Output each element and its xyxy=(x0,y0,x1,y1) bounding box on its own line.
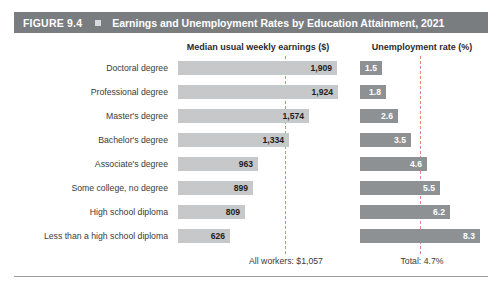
earnings-value-label: 626 xyxy=(211,231,230,241)
chart-row: Professional degree1,9241.8 xyxy=(0,80,502,104)
chart-row: High school diploma8096.2 xyxy=(0,200,502,224)
unemployment-bar: 1.8 xyxy=(360,85,386,99)
unemployment-bar: 4.6 xyxy=(360,157,427,171)
unemployment-bar: 5.5 xyxy=(360,181,440,195)
unemployment-value-label: 6.2 xyxy=(433,207,450,217)
chart-row: Associate's degree9634.6 xyxy=(0,152,502,176)
unemployment-bar: 6.2 xyxy=(360,205,450,219)
row-label-bachelor-s-degree: Bachelor's degree xyxy=(8,128,172,152)
earnings-value-label: 963 xyxy=(239,159,258,169)
earnings-value-label: 899 xyxy=(234,183,253,193)
chart-row: Less than a high school diploma6268.3 xyxy=(0,224,502,248)
unemployment-value-label: 8.3 xyxy=(463,231,480,241)
earnings-bar: 899 xyxy=(178,181,253,195)
earnings-bar: 626 xyxy=(178,229,230,243)
unemployment-value-label: 5.5 xyxy=(423,183,440,193)
figure-9-4-chart: { "figure": { "number_label": "FIGURE 9.… xyxy=(0,0,502,289)
row-label-high-school-diploma: High school diploma xyxy=(8,200,172,224)
row-label-master-s-degree: Master's degree xyxy=(8,104,172,128)
footnote-total-rate: Total: 4.7% xyxy=(356,256,488,266)
unemployment-value-label: 2.6 xyxy=(381,111,398,121)
chart-row: Master's degree1,5742.6 xyxy=(0,104,502,128)
earnings-bar: 963 xyxy=(178,157,258,171)
unemployment-value-label: 3.5 xyxy=(394,135,411,145)
row-label-professional-degree: Professional degree xyxy=(8,80,172,104)
figure-title-bar: FIGURE 9.4 Earnings and Unemployment Rat… xyxy=(14,12,488,33)
earnings-value-label: 1,924 xyxy=(311,87,338,97)
unemployment-bar: 1.5 xyxy=(360,61,382,75)
unemployment-bar: 2.6 xyxy=(360,109,398,123)
unemployment-value-label: 4.6 xyxy=(410,159,427,169)
earnings-bar: 1,924 xyxy=(178,85,338,99)
chart-row: Doctoral degree1,9091.5 xyxy=(0,56,502,80)
square-bullet-icon xyxy=(95,20,101,26)
footnote-all-workers: All workers: $1,057 xyxy=(196,256,376,266)
earnings-bar: 1,574 xyxy=(178,109,309,123)
chart-plot-area: Doctoral degree1,9091.5Professional degr… xyxy=(0,56,502,248)
unemployment-bar: 8.3 xyxy=(360,229,480,243)
earnings-bar: 1,909 xyxy=(178,61,337,75)
unemployment-value-label: 1.8 xyxy=(369,87,386,97)
earnings-bar: 1,334 xyxy=(178,133,289,147)
row-label-some-college-no-degree: Some college, no degree xyxy=(8,176,172,200)
chart-row: Some college, no degree8995.5 xyxy=(0,176,502,200)
column-header-earnings: Median usual weekly earnings ($) xyxy=(168,42,348,52)
row-label-associate-s-degree: Associate's degree xyxy=(8,152,172,176)
row-label-less-than-a-high-school-diploma: Less than a high school diploma xyxy=(8,224,172,248)
earnings-value-label: 1,574 xyxy=(282,111,309,121)
figure-title: Earnings and Unemployment Rates by Educa… xyxy=(112,17,444,29)
chart-row: Bachelor's degree1,3343.5 xyxy=(0,128,502,152)
column-header-unemployment: Unemployment rate (%) xyxy=(356,42,488,52)
earnings-bar: 809 xyxy=(178,205,245,219)
row-label-doctoral-degree: Doctoral degree xyxy=(8,56,172,80)
earnings-value-label: 809 xyxy=(226,207,245,217)
unemployment-value-label: 1.5 xyxy=(365,63,382,73)
earnings-value-label: 1,334 xyxy=(262,135,289,145)
earnings-value-label: 1,909 xyxy=(310,63,337,73)
bottom-divider xyxy=(14,276,488,277)
figure-number: FIGURE 9.4 xyxy=(23,17,82,29)
unemployment-bar: 3.5 xyxy=(360,133,411,147)
